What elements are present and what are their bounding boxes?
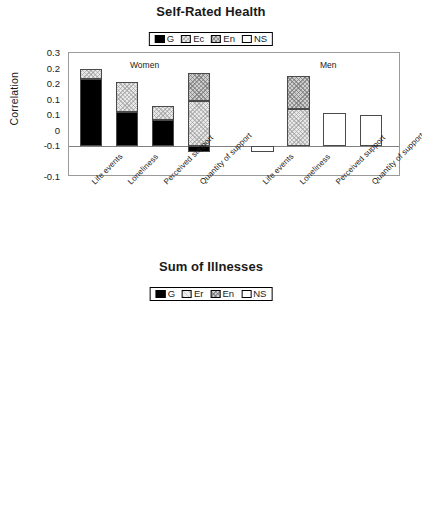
page-title: Self-Rated Health [0, 4, 422, 19]
y-axis-tick-label: 0.3 [26, 47, 64, 58]
legend-label: En [223, 289, 235, 299]
legend-item-ns: NS [241, 289, 266, 299]
bar-segment [287, 76, 309, 109]
legend-swatch-icon [211, 35, 221, 43]
bar-segment [116, 82, 138, 111]
y-axis-tick-label: 0.1 [26, 93, 64, 104]
legend-label: Ec [193, 34, 204, 44]
legend-label: Er [194, 289, 204, 299]
bar-segment [116, 112, 138, 146]
bar-segment [80, 79, 102, 146]
legend-label: NS [253, 289, 266, 299]
legend-label: G [167, 34, 174, 44]
legend-swatch-icon [241, 290, 251, 298]
y-axis-tick-label: 0.1 [26, 109, 64, 120]
bar-segment [188, 73, 210, 101]
bar-segment [152, 120, 174, 146]
y-axis-tick-label: -0.1 [26, 140, 64, 151]
group-label-men: Men [320, 60, 337, 70]
x-axis-labels: Life eventsLonelinessPerceived supportQu… [0, 178, 422, 248]
legend-swatch-icon [181, 35, 191, 43]
y-axis-tick-label: 0.2 [26, 78, 64, 89]
legend-label: G [168, 289, 175, 299]
legend-item-ec: Ec [181, 34, 204, 44]
bar-segment [80, 69, 102, 80]
bar-segment [287, 109, 309, 146]
legend-item-ns: NS [242, 34, 267, 44]
chart-legend: GEcEnNS [149, 32, 273, 46]
legend-item-g: G [155, 34, 174, 44]
legend-item-er: Er [182, 289, 204, 299]
legend-item-en: En [211, 34, 235, 44]
legend-item-g: G [156, 289, 175, 299]
y-axis-tick-label: 0.2 [26, 62, 64, 73]
chart-legend-secondary: GErEnNS [150, 287, 273, 301]
y-axis-tick-label: 0 [26, 124, 64, 135]
legend-swatch-icon [242, 35, 252, 43]
y-axis-title: Correlation [8, 72, 20, 126]
legend-item-en: En [211, 289, 235, 299]
legend-label: En [223, 34, 235, 44]
bar-segment [323, 113, 345, 146]
chart-panel-sum-of-illnesses: Sum of Illnesses GErEnNS Correlation 0.3… [0, 255, 422, 510]
bar-segment [152, 106, 174, 120]
legend-swatch-icon [211, 290, 221, 298]
legend-swatch-icon [182, 290, 192, 298]
group-label-women: Women [130, 60, 159, 70]
y-axis-ticks: 0.30.20.20.10.10-0.1-0.1 [30, 52, 64, 176]
legend-label: NS [254, 34, 267, 44]
page-title-secondary: Sum of Illnesses [0, 259, 422, 274]
chart-panel-self-rated-health: Self-Rated Health GEcEnNS Correlation 0.… [0, 0, 422, 255]
legend-swatch-icon [155, 35, 165, 43]
legend-swatch-icon [156, 290, 166, 298]
bar-segment [251, 146, 273, 152]
